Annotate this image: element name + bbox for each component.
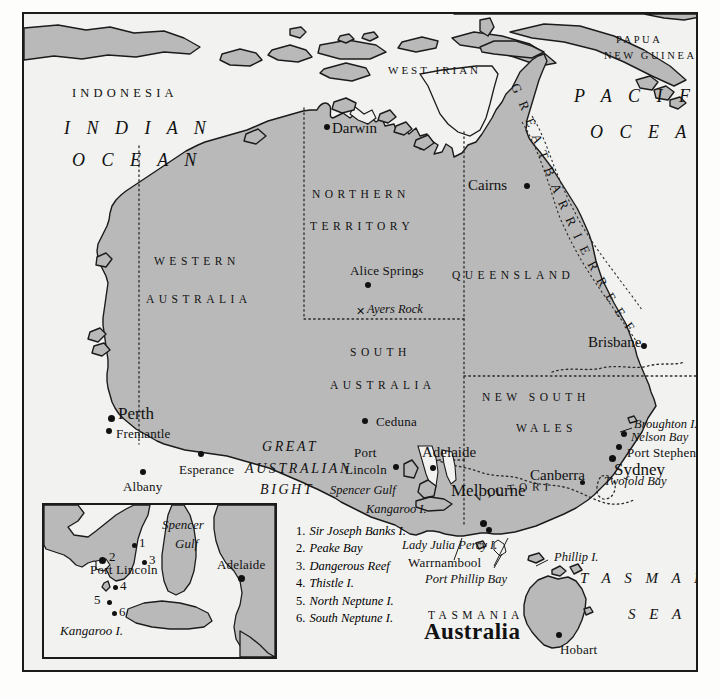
legend-item: 5. North Neptune I. bbox=[296, 592, 446, 609]
inset-point-dot-6 bbox=[112, 611, 117, 616]
city-dot-brisbane bbox=[641, 343, 647, 349]
city-label-melbourne: Melbourne bbox=[451, 481, 526, 501]
inset-point-dot-5 bbox=[107, 600, 112, 605]
city-dot-warrnambool bbox=[486, 527, 492, 533]
state-label-south-australia: AUSTRALIA bbox=[330, 379, 436, 391]
inset-label-adelaide: Adelaide bbox=[217, 557, 266, 573]
inset-label-gulf: Gulf bbox=[175, 536, 198, 552]
country-label-new-guinea: NEW GUINEA bbox=[604, 50, 697, 61]
map-frame: .land{fill:#b9b9b9;stroke:#1b1b1b;stroke… bbox=[22, 12, 698, 672]
feature-label-spencer-gulf: Spencer Gulf bbox=[330, 483, 396, 498]
state-label-new-south: NEW SOUTH bbox=[482, 391, 590, 403]
legend-list: 1. Sir Joseph Banks I. 2. Peake Bay 3. D… bbox=[296, 522, 446, 626]
city-label-brisbane: Brisbane bbox=[588, 334, 641, 351]
country-label-indonesia: INDONESIA bbox=[72, 86, 178, 101]
city-dot-albany bbox=[140, 469, 146, 475]
legend-item-label: South Neptune I. bbox=[309, 611, 393, 625]
inset-dot-adelaide bbox=[238, 575, 245, 582]
inset-label-kangaroo-island: Kangaroo I. bbox=[60, 623, 123, 639]
legend-item-number: 6. bbox=[296, 611, 305, 625]
feature-label-kangaroo-island: Kangaroo I. bbox=[366, 502, 427, 517]
legend-item: 2. Peake Bay bbox=[296, 539, 446, 556]
legend-item-label: Sir Joseph Banks I. bbox=[309, 524, 406, 538]
ocean-label-pacific-1: P A C I F I C bbox=[574, 86, 698, 107]
city-label-hobart: Hobart bbox=[560, 642, 597, 658]
feature-label-broughton-island: Broughton I. bbox=[634, 417, 697, 432]
city-label-port: Port bbox=[354, 445, 376, 461]
legend-item-number: 5. bbox=[296, 594, 305, 608]
inset-point-label-5: 5 bbox=[94, 592, 101, 608]
city-dot-alice-springs bbox=[365, 282, 371, 288]
legend-item-label: North Neptune I. bbox=[309, 594, 393, 608]
city-label-adelaide: Adelaide bbox=[422, 444, 476, 461]
feature-label-twofold-bay: Twofold Bay bbox=[604, 474, 667, 489]
inset-point-label-3: 3 bbox=[149, 552, 156, 568]
legend-item-number: 4. bbox=[296, 576, 305, 590]
country-label-west-irian: WEST IRIAN bbox=[388, 64, 481, 76]
city-dot-fremantle bbox=[106, 428, 112, 434]
city-label-nelson-bay: Nelson Bay bbox=[631, 430, 688, 445]
city-label-perth: Perth bbox=[118, 404, 154, 424]
city-dot-port-lincoln bbox=[393, 464, 399, 470]
city-label-cairns: Cairns bbox=[468, 177, 507, 194]
city-dot-adelaide bbox=[430, 465, 436, 471]
inset-point-dot-4 bbox=[113, 585, 118, 590]
city-dot-cairns bbox=[524, 183, 530, 189]
ocean-label-pacific-2: O C E A N bbox=[590, 122, 698, 143]
city-dot-canberra bbox=[580, 480, 585, 485]
legend-item-number: 3. bbox=[296, 559, 305, 573]
state-label-northern: NORTHERN bbox=[312, 188, 410, 200]
city-dot-sydney bbox=[609, 455, 616, 462]
city-dot-perth bbox=[108, 415, 115, 422]
city-dot-ceduna bbox=[362, 418, 368, 424]
ocean-label-indian-2: O C E A N bbox=[72, 150, 202, 171]
ocean-label-indian-1: I N D I A N bbox=[64, 118, 212, 139]
city-label-alice-springs: Alice Springs bbox=[350, 263, 424, 279]
city-dot-melbourne bbox=[480, 520, 487, 527]
feature-label-australian: AUSTRALIAN bbox=[245, 461, 352, 477]
legend-item-label: Thistle I. bbox=[309, 576, 353, 590]
state-label-western: WESTERN bbox=[154, 255, 240, 267]
legend-item-label: Dangerous Reef bbox=[309, 559, 389, 573]
legend-item-number: 2. bbox=[296, 541, 305, 555]
city-dot-esperance bbox=[198, 451, 204, 457]
map-page: .land{fill:#b9b9b9;stroke:#1b1b1b;stroke… bbox=[0, 0, 720, 699]
legend-item: 1. Sir Joseph Banks I. bbox=[296, 522, 446, 539]
city-label-fremantle: Fremantle bbox=[116, 426, 171, 442]
city-dot-port-stephens bbox=[616, 444, 622, 450]
state-label-western-australia: AUSTRALIA bbox=[146, 293, 252, 305]
state-label-wales: WALES bbox=[516, 422, 577, 434]
ocean-label-tasman-2: S E A bbox=[628, 606, 686, 623]
inset-point-dot-3 bbox=[142, 560, 147, 565]
legend-item: 3. Dangerous Reef bbox=[296, 557, 446, 574]
feature-label-phillip-island: Phillip I. bbox=[554, 550, 598, 565]
ayers-rock-marker-icon: ✕ bbox=[356, 305, 365, 318]
inset-label-spencer: Spencer bbox=[162, 517, 204, 533]
inset-map: .iland{fill:#b9b9b9;stroke:#1b1b1b;strok… bbox=[42, 503, 277, 659]
feature-label-great: GREAT bbox=[262, 439, 318, 455]
legend-item-label: Peake Bay bbox=[309, 541, 362, 555]
city-dot-darwin bbox=[324, 124, 330, 130]
state-label-queensland: QUEENSLAND bbox=[452, 269, 574, 281]
inset-point-label-2: 2 bbox=[109, 549, 116, 565]
city-label-canberra: Canberra bbox=[530, 467, 585, 484]
inset-point-label-4: 4 bbox=[120, 578, 127, 594]
city-label-port-stephens: Port Stephens bbox=[627, 445, 698, 461]
city-dot-hobart bbox=[556, 632, 562, 638]
city-label-esperance: Esperance bbox=[179, 462, 234, 478]
inset-point-label-6: 6 bbox=[119, 604, 126, 620]
legend-item-number: 1. bbox=[296, 524, 305, 538]
country-label-papua: PAPUA bbox=[616, 34, 662, 45]
inset-label-port-lincoln: Port Lincoln bbox=[90, 562, 158, 578]
state-label-south: SOUTH bbox=[350, 346, 411, 358]
city-label-darwin: Darwin bbox=[332, 120, 377, 137]
inset-point-dot-1 bbox=[132, 543, 137, 548]
legend-item: 4. Thistle I. bbox=[296, 574, 446, 591]
city-label-albany: Albany bbox=[123, 479, 162, 495]
feature-label-ayers-rock: Ayers Rock bbox=[367, 302, 423, 317]
inset-point-dot-2 bbox=[100, 558, 105, 563]
inset-point-label-1: 1 bbox=[139, 535, 146, 551]
feature-label-bight: BIGHT bbox=[260, 482, 314, 498]
city-label-ceduna: Ceduna bbox=[376, 414, 417, 430]
state-label-territory: TERRITORY bbox=[310, 220, 414, 232]
